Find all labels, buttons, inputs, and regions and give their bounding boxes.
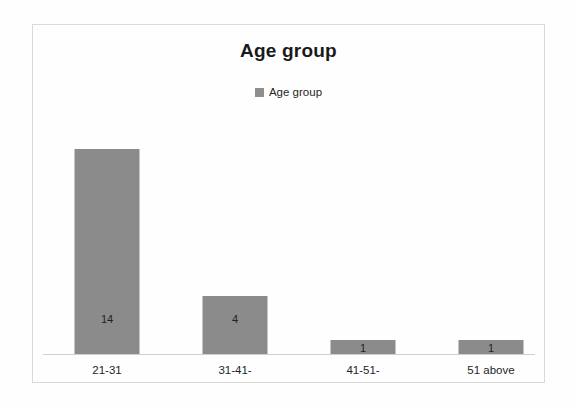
bar-slot: 4 [171,125,299,355]
legend-item-label: Age group [269,86,322,98]
category-axis-line [43,354,535,355]
bar-value-label: 4 [232,313,238,325]
chart-legend: Age group [33,86,544,98]
bar-value-label: 14 [101,313,113,325]
chart-title: Age group [33,40,544,62]
bar-slot: 1 [299,125,427,355]
category-label-0: 21-31 [43,364,171,376]
chart-frame: Age group Age group 14 4 1 1 [32,24,545,383]
bar-slot: 1 [427,125,555,355]
legend-swatch-icon [255,88,264,97]
category-label-1: 31-41- [171,364,299,376]
bar-31-41 [203,296,268,355]
category-label-2: 41-51- [299,364,427,376]
chart-image: Age group Age group 14 4 1 1 [0,0,576,406]
category-label-3: 51 above [427,364,555,376]
category-axis: 21-31 31-41- 41-51- 51 above [43,358,535,384]
plot-area: 14 4 1 1 [43,125,535,355]
bar-value-label: 1 [360,342,366,354]
bar-slot: 14 [43,125,171,355]
bar-value-label: 1 [488,342,494,354]
